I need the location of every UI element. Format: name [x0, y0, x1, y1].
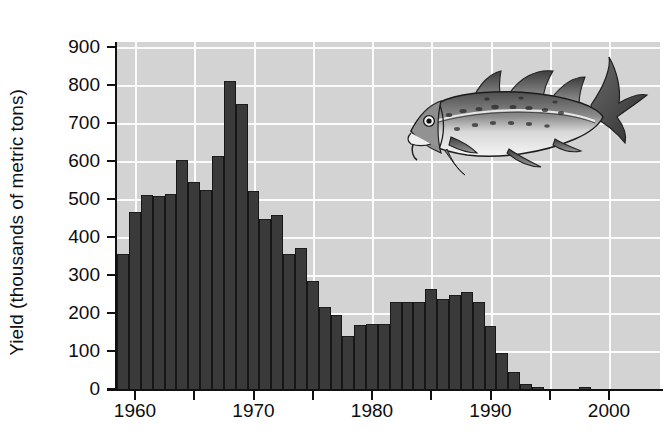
x-axis-tick: [134, 391, 136, 400]
bar: [366, 324, 378, 389]
x-axis-tick-label: 2000: [574, 401, 644, 420]
bar: [117, 254, 129, 389]
x-axis-tick: [371, 391, 373, 400]
bar: [307, 281, 319, 389]
bar: [342, 336, 354, 389]
y-axis-line: [115, 42, 117, 391]
gridline-horizontal: [117, 161, 660, 163]
bar: [176, 160, 188, 389]
y-axis-tick-label: 800: [56, 75, 100, 94]
bar: [295, 248, 307, 389]
bar: [331, 315, 343, 389]
y-axis-tick: [107, 122, 116, 124]
gridline-horizontal: [117, 123, 660, 125]
bar: [259, 219, 271, 389]
x-axis-tick-label: 1980: [337, 401, 407, 420]
y-axis-tick-label: 100: [56, 341, 100, 360]
bar: [402, 302, 414, 389]
x-axis-line: [107, 389, 663, 391]
bar: [165, 194, 177, 389]
y-axis-tick-label: 600: [56, 151, 100, 170]
bar: [212, 156, 224, 389]
bar: [271, 215, 283, 389]
bar: [129, 212, 141, 389]
gridline-vertical: [550, 42, 552, 389]
gridline-horizontal: [117, 47, 660, 49]
y-axis-tick: [107, 350, 116, 352]
bar: [319, 307, 331, 389]
y-axis-tick: [107, 274, 116, 276]
bar: [425, 289, 437, 389]
plot-area: [117, 42, 660, 389]
y-axis-tick-label: 900: [56, 37, 100, 56]
x-axis-tick-label: 1970: [219, 401, 289, 420]
x-axis-tick: [430, 391, 432, 400]
y-axis-tick-label: 700: [56, 113, 100, 132]
bar: [508, 372, 520, 389]
gridline-vertical: [609, 42, 611, 389]
bar: [496, 353, 508, 389]
gridline-horizontal: [117, 85, 660, 87]
y-axis-tick: [107, 198, 116, 200]
x-axis-tick: [193, 391, 195, 400]
bar: [248, 191, 260, 389]
y-axis-tick: [107, 388, 116, 390]
bar: [224, 81, 236, 389]
y-axis-tick-label: 500: [56, 189, 100, 208]
bar: [236, 104, 248, 389]
x-axis-tick-label: 1990: [456, 401, 526, 420]
y-axis-tick: [107, 236, 116, 238]
y-axis-tick: [107, 312, 116, 314]
bar: [378, 324, 390, 389]
x-axis-tick: [549, 391, 551, 400]
x-axis-tick: [490, 391, 492, 400]
bar: [449, 295, 461, 389]
x-axis-tick: [608, 391, 610, 400]
y-axis-tick-labels: 0100200300400500600700800900: [48, 0, 100, 445]
bar: [413, 302, 425, 389]
y-axis-tick: [107, 84, 116, 86]
bar: [141, 195, 153, 389]
bar: [153, 196, 165, 389]
bar: [390, 302, 402, 389]
y-axis-title: Yield (thousands of metric tons): [0, 0, 34, 445]
bar: [354, 325, 366, 389]
bar: [473, 302, 485, 389]
bar: [188, 182, 200, 389]
y-axis-tick-label: 0: [56, 379, 100, 398]
bar: [437, 299, 449, 389]
cod-yield-chart-figure: Yield (thousands of metric tons) 0100200…: [0, 0, 667, 445]
bar: [200, 190, 212, 390]
y-axis-tick-label: 400: [56, 227, 100, 246]
bar: [485, 326, 497, 389]
bar: [283, 254, 295, 389]
y-axis-tick: [107, 160, 116, 162]
x-axis-tick: [312, 391, 314, 400]
y-axis-tick-label: 300: [56, 265, 100, 284]
x-axis-tick: [253, 391, 255, 400]
x-axis-tick-label: 1960: [100, 401, 170, 420]
bar: [461, 292, 473, 389]
y-axis-tick-label: 200: [56, 303, 100, 322]
y-axis-tick: [107, 46, 116, 48]
